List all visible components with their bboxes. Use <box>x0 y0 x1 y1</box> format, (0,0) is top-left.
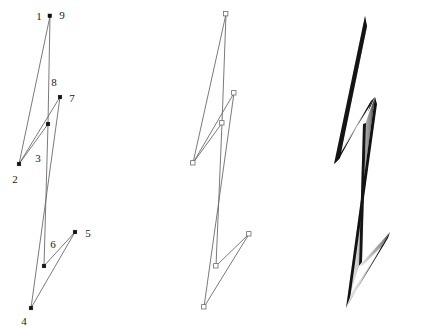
segment-b-inner-down <box>216 123 222 266</box>
vertex-marker-b-lower-right[interactable] <box>247 232 251 236</box>
panel-solid-bolt <box>290 0 431 327</box>
panel-b-lines <box>193 14 249 307</box>
vertex-marker-b-lower-mid[interactable] <box>214 264 218 268</box>
vertex-label-9: 9 <box>59 9 65 21</box>
vertex-marker-7[interactable] <box>58 95 62 99</box>
panel-open-vertices <box>150 0 290 327</box>
vertex-marker-8[interactable] <box>46 122 50 126</box>
panel-a-labels: 1 9 2 3 8 7 6 5 4 <box>12 9 91 327</box>
vertex-marker-6[interactable] <box>42 264 46 268</box>
vertex-marker-5[interactable] <box>73 230 77 234</box>
segment-9-2 <box>19 16 50 164</box>
panel-labeled-vertices: 1 9 2 3 8 7 6 5 4 <box>0 0 150 327</box>
vertex-label-6: 6 <box>50 238 56 250</box>
segment-b-right-down <box>204 93 234 307</box>
vertex-marker-b-mid[interactable] <box>220 121 224 125</box>
panel-a-svg: 1 9 2 3 8 7 6 5 4 <box>0 0 150 327</box>
lightning-bolt-figure: 1 9 2 3 8 7 6 5 4 <box>0 0 431 327</box>
vertex-label-3: 3 <box>35 152 41 164</box>
panel-c-svg <box>290 0 431 327</box>
segment-b-left-upright <box>193 93 234 163</box>
vertex-label-8: 8 <box>51 76 57 88</box>
segment-8-6 <box>44 124 48 266</box>
vertex-label-4: 4 <box>21 315 27 327</box>
segment-6-5 <box>44 232 75 266</box>
vertex-marker-9[interactable] <box>48 14 52 18</box>
panel-b-svg <box>150 0 290 327</box>
segment-9-8 <box>48 16 50 124</box>
vertex-marker-b-left[interactable] <box>191 161 195 165</box>
vertex-label-7: 7 <box>69 92 75 104</box>
vertex-marker-b-bottom[interactable] <box>202 305 206 309</box>
bolt-edge-middle-left <box>359 123 366 266</box>
vertex-marker-2[interactable] <box>17 162 21 166</box>
vertex-marker-4[interactable] <box>29 306 33 310</box>
segment-7-4 <box>31 97 60 308</box>
vertex-label-1: 1 <box>36 10 42 22</box>
segment-b-bottom-left <box>204 234 249 307</box>
bolt-edge-upper-left <box>334 16 367 164</box>
bolt-shape <box>334 16 390 308</box>
vertex-label-5: 5 <box>85 227 91 239</box>
vertex-marker-b-top[interactable] <box>224 12 228 16</box>
vertex-marker-b-upper-right[interactable] <box>232 91 236 95</box>
vertex-label-2: 2 <box>12 173 18 185</box>
panel-a-lines <box>19 16 75 308</box>
